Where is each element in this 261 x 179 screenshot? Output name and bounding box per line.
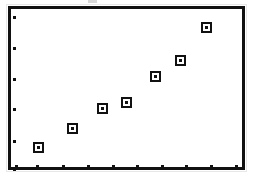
x-axis-tick-8 [185,165,188,168]
data-point-marker [97,103,108,114]
data-point-center-dot [179,59,182,62]
data-point-marker [67,123,78,134]
y-axis-tick-5 [13,140,16,143]
data-point-marker [33,142,44,153]
x-axis-tick-2 [36,165,39,168]
data-point-marker [121,97,132,108]
data-point-marker [201,22,212,33]
x-axis-tick-9 [210,165,213,168]
data-point-center-dot [101,107,104,110]
y-axis-tick-4 [13,108,16,111]
x-axis-tick-7 [161,165,164,168]
data-point-center-dot [154,75,157,78]
x-axis-tick-10 [235,165,238,168]
x-axis-tick-5 [112,165,115,168]
x-axis-tick-3 [62,165,65,168]
data-point-marker [150,71,161,82]
scatter-plot-figure [0,0,261,179]
y-axis-tick-2 [13,47,16,50]
y-axis-tick-3 [13,78,16,81]
data-point-center-dot [71,127,74,130]
x-axis-tick-1 [15,165,18,168]
data-point-center-dot [205,26,208,29]
y-axis-tick-1 [13,16,16,19]
data-point-center-dot [37,146,40,149]
data-point-marker [175,55,186,66]
x-axis-tick-6 [136,165,139,168]
y-axis-tick-6 [13,168,16,171]
x-axis-tick-4 [87,165,90,168]
cropped-text-artifact [88,0,97,3]
data-point-center-dot [125,101,128,104]
